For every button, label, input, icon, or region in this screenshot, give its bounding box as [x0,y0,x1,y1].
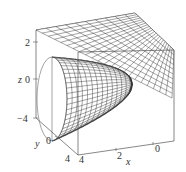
x-tick-label: 2 [117,150,122,161]
z-tick-label: 2 [25,37,30,48]
z-tick-label: −4 [17,113,28,124]
x-tick-label: 0 [155,143,160,154]
y-tick-label: 0 [46,135,51,146]
z-tick-label: 0 [25,74,30,85]
y-axis-label: y [34,138,40,149]
y-tick-label: 4 [65,153,70,164]
x-tick-label: 4 [79,154,84,165]
x-axis-label: x [125,156,131,167]
z-axis-label: z [17,74,22,85]
paraboloid-surface [37,57,132,141]
surface-plot: 2 0 −4 z 0 4 y 4 2 0 x [0,0,186,172]
